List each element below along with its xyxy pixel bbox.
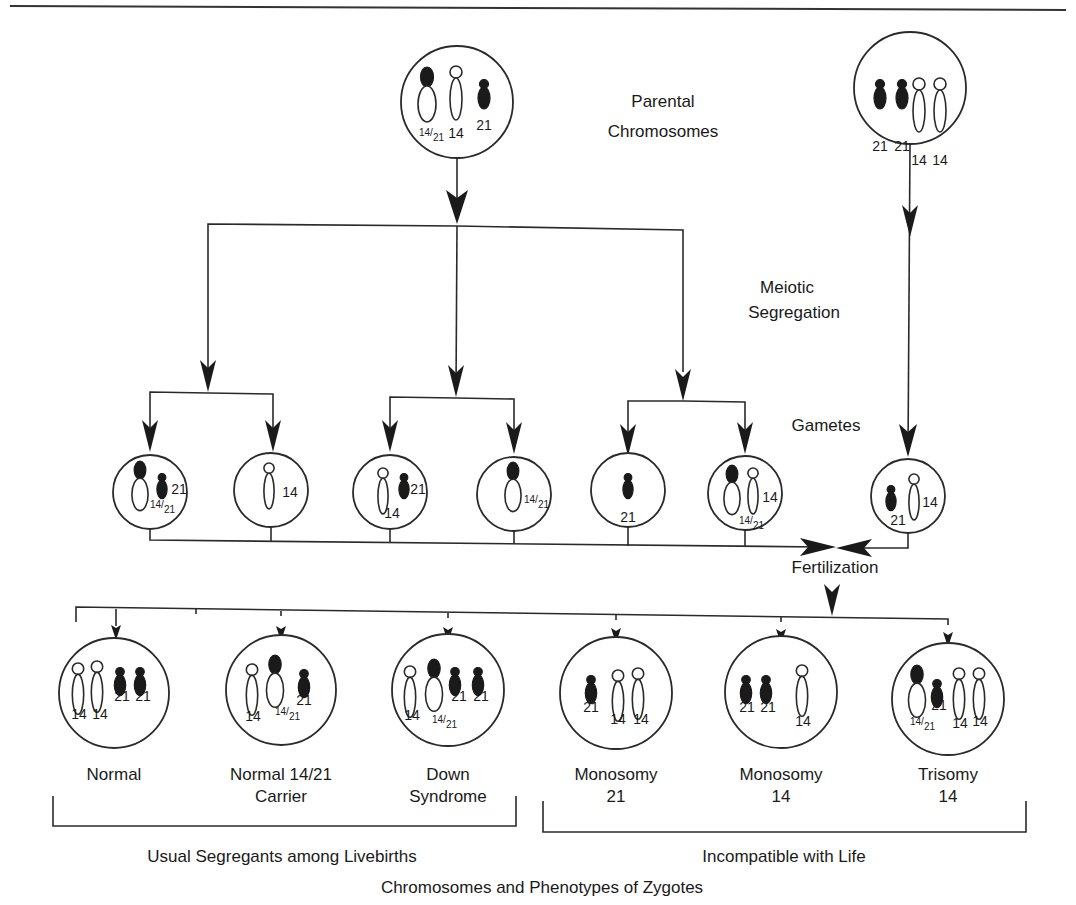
phenotype-label: Carrier: [255, 787, 307, 806]
chromosome-label: 21: [931, 697, 947, 713]
chromosome-21-icon: [399, 474, 409, 499]
chromosome-label: 14: [762, 489, 778, 505]
phenotype-label: Normal 14/21: [230, 765, 332, 784]
chromosome-21-icon: [874, 80, 886, 110]
chromosome-translocation-icon: [505, 462, 521, 511]
fertilization-arrowheads: [111, 538, 953, 647]
phenotype-label: Monosomy: [574, 765, 658, 784]
chromosome-label: 14: [384, 505, 400, 521]
chromosome-translocation-icon: [425, 659, 442, 711]
chromosome-label: 21: [620, 509, 636, 525]
phenotype-label: 14: [939, 787, 958, 806]
chromosome-14-icon: [913, 78, 925, 132]
chromosome-label: 14: [932, 152, 948, 168]
chromosome-label: 21: [476, 117, 492, 133]
chromosome-label: 14: [448, 125, 464, 141]
chromosome-label: 21: [760, 699, 776, 715]
chromosome-21-icon: [623, 474, 633, 499]
meiotic-label-line2: Segregation: [748, 303, 840, 322]
chromosome-label: 14: [922, 494, 938, 510]
chromosome-14-icon: [91, 661, 102, 712]
chromosome-label: 14: [633, 711, 649, 727]
translocation-segregation-diagram: Parental Chromosomes Meiotic Segregation…: [0, 0, 1076, 905]
meiotic-label-line1: Meiotic: [760, 278, 814, 297]
chromosome-label: 21: [583, 699, 599, 715]
chromosome-21-icon: [886, 486, 896, 511]
chromosome-label: 14: [911, 152, 927, 168]
zygote-cell: 212114: [725, 636, 837, 748]
chromosome-label: 14: [795, 713, 811, 729]
livebirths-bracket-label: Usual Segregants among Livebirths: [147, 847, 416, 866]
zygote-cell: 14142121: [59, 638, 169, 748]
fertilization-label: Fertilization: [792, 558, 879, 577]
chromosome-label: 21: [872, 138, 888, 154]
gamete-cell: 14/21: [477, 457, 551, 531]
phenotype-label: Trisomy: [918, 765, 978, 784]
phenotype-labels: NormalNormal 14/21CarrierDownSyndromeMon…: [87, 765, 979, 806]
zygote-cell: 211414: [560, 637, 672, 749]
chromosome-label: 21: [739, 699, 755, 715]
chromosome-14-icon: [909, 474, 919, 520]
footer-caption: Chromosomes and Phenotypes of Zygotes: [381, 878, 703, 897]
chromosome-translocation-icon: [724, 465, 740, 514]
chromosome-label: 14: [282, 484, 298, 500]
chromosome-label: 21: [894, 138, 910, 154]
arrow-down-icon: [824, 584, 840, 616]
incompatible-bracket-label: Incompatible with Life: [702, 847, 865, 866]
chromosome-label: 14: [972, 713, 988, 729]
chromosome-21-icon: [896, 80, 908, 110]
chromosome-14-icon: [934, 78, 946, 132]
arrow-down-icon: [675, 369, 691, 401]
chromosome-translocation-icon: [132, 461, 148, 510]
gamete-cell: 21: [591, 453, 665, 527]
gamete-cell: 14/2121: [113, 455, 187, 529]
gamete-cell: 1421: [353, 455, 427, 529]
gamete-cell: 14/2114: [708, 456, 782, 531]
phenotype-label: 21: [607, 787, 626, 806]
chromosome-21-icon: [478, 80, 490, 110]
top-rule: [10, 6, 1066, 10]
chromosome-label: 14: [71, 706, 87, 722]
chromosome-label: 21: [296, 692, 312, 708]
chromosome-translocation-icon: [908, 665, 925, 717]
chromosome-label: 21: [451, 688, 467, 704]
phenotype-label: Normal: [87, 765, 142, 784]
gamete-cell: 14: [234, 453, 308, 527]
chromosome-label: 21: [171, 481, 187, 497]
chromosome-label: 21: [410, 481, 426, 497]
chromosome-label: 21: [473, 688, 489, 704]
chromosome-21-icon: [157, 474, 167, 499]
meiosis-tree-lines: [150, 144, 910, 454]
chromosome-label: 14: [404, 707, 420, 723]
chromosome-label: 21: [114, 688, 130, 704]
phenotype-label: 14: [772, 787, 791, 806]
chromosome-label: 14: [610, 711, 626, 727]
chromosome-14-icon: [953, 668, 964, 719]
chromosome-label: 21: [890, 512, 906, 528]
chromosome-translocation-icon: [266, 655, 283, 707]
parental-label-line2: Chromosomes: [608, 122, 719, 141]
zygote-cell: 14/21211414: [892, 643, 1004, 755]
chromosome-14-icon: [748, 468, 758, 514]
gamete-cell: 2114: [871, 459, 945, 533]
zygote-cell: 1414/212121: [392, 634, 504, 746]
chromosome-14-icon: [264, 463, 274, 509]
chromosome-label: 14: [92, 706, 108, 722]
chromosome-14-icon: [796, 665, 807, 716]
phenotype-label: Down: [426, 765, 469, 784]
parent-cell-carrier-parent: 14/211421: [401, 46, 513, 158]
chromosome-14-icon: [450, 66, 462, 120]
phenotype-label: Syndrome: [409, 787, 486, 806]
chromosome-label: 14: [245, 708, 261, 724]
zygote-cell: 1414/2121: [226, 635, 336, 745]
chromosome-translocation-icon: [418, 67, 436, 122]
chromosome-label: 14: [952, 715, 968, 731]
phenotype-label: Monosomy: [739, 765, 823, 784]
chromosome-14-icon: [973, 668, 984, 719]
chromosome-label: 21: [135, 688, 151, 704]
parental-label-line1: Parental: [631, 92, 694, 111]
gametes-label: Gametes: [792, 416, 861, 435]
